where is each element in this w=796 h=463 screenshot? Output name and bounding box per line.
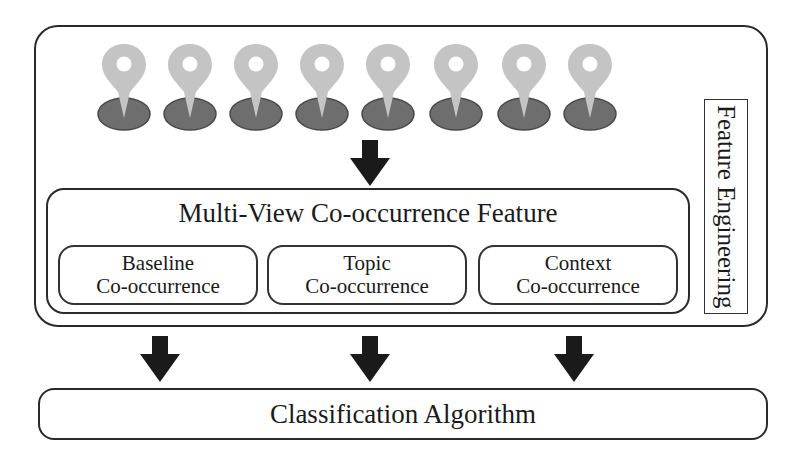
map-pin-icon	[562, 40, 618, 132]
arrow-down-icon	[350, 336, 390, 386]
subfeature-line2: Co-occurrence	[96, 275, 220, 298]
map-pin-icon	[162, 40, 218, 132]
map-pin-icon	[360, 40, 416, 132]
context-cooccurrence-box: Context Co-occurrence	[478, 245, 678, 305]
classification-algorithm-box: Classification Algorithm	[38, 388, 768, 440]
map-pin-icon	[96, 40, 152, 132]
subfeature-line1: Baseline	[122, 252, 194, 275]
arrow-down-icon	[554, 336, 594, 386]
classification-algorithm-label: Classification Algorithm	[270, 399, 536, 430]
arrow-down-icon	[140, 336, 180, 386]
subfeature-line1: Topic	[343, 252, 391, 275]
feature-engineering-label-box: Feature Engineering	[704, 99, 748, 314]
feature-engineering-label: Feature Engineering	[714, 105, 739, 308]
map-pin-icon	[428, 40, 484, 132]
subfeature-line2: Co-occurrence	[305, 275, 429, 298]
topic-cooccurrence-box: Topic Co-occurrence	[267, 245, 467, 305]
location-pins-row	[96, 40, 626, 135]
arrow-down-icon	[350, 140, 390, 190]
subfeature-line1: Context	[545, 252, 612, 275]
subfeature-line2: Co-occurrence	[516, 275, 640, 298]
map-pin-icon	[294, 40, 350, 132]
multi-view-feature-title: Multi-View Co-occurrence Feature	[46, 196, 690, 230]
map-pin-icon	[228, 40, 284, 132]
baseline-cooccurrence-box: Baseline Co-occurrence	[58, 245, 258, 305]
map-pin-icon	[496, 40, 552, 132]
